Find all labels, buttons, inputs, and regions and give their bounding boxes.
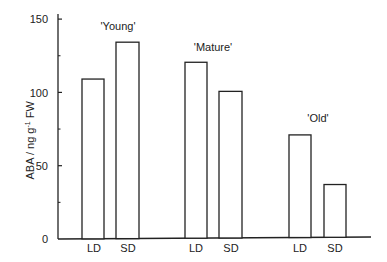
- group-label-mature: 'Mature': [183, 41, 243, 53]
- plot-area: [0, 0, 387, 262]
- y-tick-label-150: 150: [18, 13, 48, 25]
- y-axis-label-main: ABA / ng g: [24, 128, 36, 180]
- bar-young-sd: [116, 42, 139, 238]
- group-label-young: 'Young': [88, 20, 148, 32]
- bar-old-sd: [324, 185, 346, 238]
- x-label-mature-sd: SD: [216, 242, 246, 254]
- bar-mature-ld: [185, 62, 207, 238]
- y-axis-label-tail: FW: [24, 101, 36, 121]
- x-label-old-ld: LD: [285, 242, 315, 254]
- group-label-old: 'Old': [288, 112, 348, 124]
- y-tick-label-0: 0: [18, 233, 48, 245]
- abscisic-acid-bar-chart: 150 100 50 0 ABA / ng g-1 FW 'Young' 'Ma…: [0, 0, 387, 262]
- bar-young-ld: [82, 79, 104, 239]
- x-label-young-sd: SD: [113, 242, 143, 254]
- x-label-mature-ld: LD: [181, 242, 211, 254]
- y-axis-label: ABA / ng g-1 FW: [22, 75, 37, 205]
- y-axis-label-exponent: -1: [24, 121, 31, 127]
- bar-mature-sd: [219, 91, 242, 238]
- x-label-old-sd: SD: [320, 242, 350, 254]
- bar-old-ld: [289, 135, 311, 238]
- x-label-young-ld: LD: [79, 242, 109, 254]
